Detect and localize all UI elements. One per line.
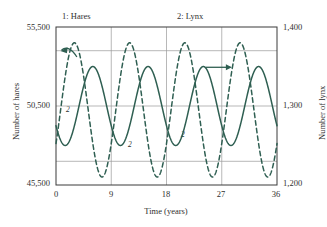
gridlines <box>56 27 277 185</box>
arrow-to-lynx-axis <box>206 64 232 70</box>
